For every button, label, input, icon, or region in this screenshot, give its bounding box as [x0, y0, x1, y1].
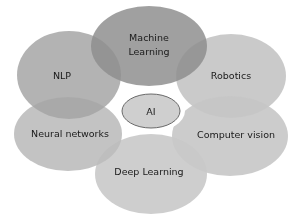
- label-machine-learning-1: Machine: [129, 32, 169, 43]
- label-nlp: NLP: [53, 70, 71, 81]
- label-deep-learning: Deep Learning: [114, 166, 183, 177]
- label-machine-learning-2: Learning: [128, 46, 169, 57]
- label-ai: AI: [146, 106, 155, 117]
- ai-fields-diagram: Machine Learning NLP Robotics Neural net…: [0, 0, 298, 218]
- label-robotics: Robotics: [211, 70, 251, 81]
- label-computer-vision: Computer vision: [197, 129, 275, 140]
- label-neural-networks: Neural networks: [31, 128, 109, 139]
